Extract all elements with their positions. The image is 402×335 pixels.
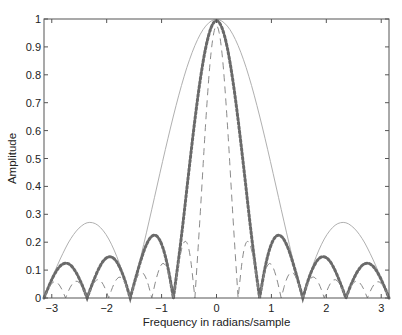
y-tick-label: 0.9 <box>26 41 41 53</box>
y-tick-label: 0 <box>35 292 41 304</box>
x-tick-label: 0 <box>213 302 219 314</box>
x-tick-label: 3 <box>378 302 384 314</box>
y-tick-label: 0.5 <box>26 153 41 165</box>
y-tick-label: 0.4 <box>26 180 41 192</box>
y-axis-label: Amplitude <box>6 133 18 184</box>
y-tick-label: 0.8 <box>26 69 41 81</box>
x-tick-label: −1 <box>155 302 168 314</box>
x-axis-label: Frequency in radians/sample <box>143 316 291 328</box>
series-n16-dashed <box>44 26 389 298</box>
x-tick-label: −3 <box>46 302 59 314</box>
y-tick-label: 0.7 <box>26 97 41 109</box>
y-tick-label: 0.6 <box>26 125 41 137</box>
x-tick-label: 2 <box>323 302 329 314</box>
y-tick-label: 0.3 <box>26 208 41 220</box>
plot-curves <box>44 19 389 298</box>
y-tick-label: 0.1 <box>26 264 41 276</box>
x-tick-label: 1 <box>268 302 274 314</box>
series-n4-solid <box>44 19 389 298</box>
series-n8-markers <box>44 21 389 298</box>
y-tick-label: 1 <box>35 13 41 25</box>
axes-box <box>44 19 389 298</box>
y-tick-label: 0.2 <box>26 236 41 248</box>
x-tick-label: −2 <box>100 302 113 314</box>
amplitude-frequency-chart: −3−2−1012300.10.20.30.40.50.60.70.80.91 … <box>0 0 402 335</box>
